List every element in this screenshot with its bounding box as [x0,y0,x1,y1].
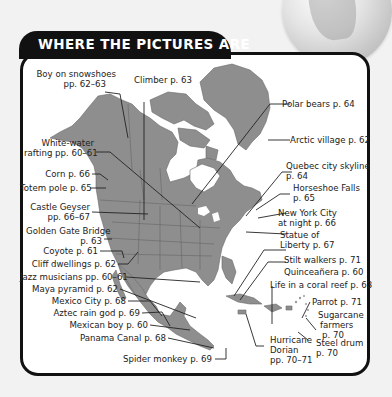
label-jazz-musicians: Jazz musicians pp. 60–61 [20,272,124,282]
label-cliff-dwellings: Cliff dwellings p. 62 [20,259,116,269]
label-quebec-city-skyline: Quebec city skyline p. 64 [286,161,370,181]
cuba-shape [226,294,262,304]
label-corn: Corn p. 66 [30,169,90,179]
label-arctic-village: Arctic village p. 62 [290,135,370,145]
label-maya-pyramid: Maya pyramid p. 62 [20,284,118,294]
label-steel-drum: Steel drum p. 70 [316,338,363,358]
greenland-shape [200,64,270,150]
label-aztec-rain-god: Aztec rain god p. 69 [20,308,140,318]
label-totem-pole: Totem pole p. 65 [20,183,88,193]
label-new-york-city: New York City at night p. 66 [278,208,337,228]
label-parrot: Parrot p. 71 [312,297,362,307]
label-boy-on-snowshoes: Boy on snowshoes pp. 62–63 [36,69,116,89]
label-statue-of-liberty: Statue of Liberty p. 67 [280,230,335,250]
label-coral-reef: Life in a coral reef p. 63 [270,280,372,290]
label-stilt-walkers: Stilt walkers p. 71 [284,255,361,265]
label-sugarcane-farmers: Sugarcane farmers p. 70 [318,310,364,340]
label-quinceanera: Quinceañera p. 60 [284,267,363,277]
label-climber: Climber p. 63 [134,75,192,85]
label-golden-gate-bridge: Golden Gate Bridge p. 63 [26,226,102,246]
label-polar-bears: Polar bears p. 64 [282,99,355,109]
label-white-water-rafting: White-water rafting pp. 60–61 [24,138,94,158]
label-mexico-city: Mexico City p. 68 [20,296,126,306]
label-panama-canal: Panama Canal p. 68 [20,333,166,343]
label-horseshoe-falls: Horseshoe Falls p. 65 [293,183,360,203]
label-coyote: Coyote p. 61 [30,246,98,256]
label-mexican-boy: Mexican boy p. 60 [20,320,148,330]
label-hurricane-dorian: Hurricane Dorian pp. 70–71 [270,335,313,365]
label-spider-monkey: Spider monkey p. 69 [60,354,212,364]
label-castle-geyser: Castle Geyser pp. 66–67 [30,202,90,222]
